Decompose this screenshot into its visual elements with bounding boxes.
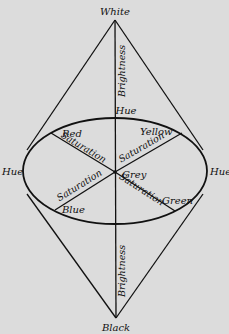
grey-center-point xyxy=(113,170,117,174)
color-solid-diagram: White Black Hue Hue Hue Brightness Brigh… xyxy=(0,0,229,334)
hue-label-left: Hue xyxy=(1,166,23,177)
green-label: Green xyxy=(162,195,193,206)
hue-label-right: Hue xyxy=(209,166,229,177)
black-label: Black xyxy=(101,322,130,333)
saturation-label-blue: Saturation xyxy=(55,167,104,203)
white-label: White xyxy=(100,6,130,17)
saturation-label-red: Saturation xyxy=(59,129,108,165)
brightness-label-upper: Brightness xyxy=(116,45,127,98)
blue-label: Blue xyxy=(61,204,85,215)
hue-label-top: Hue xyxy=(114,105,136,116)
brightness-label-lower: Brightness xyxy=(116,245,127,298)
lower-right-edge xyxy=(116,194,203,318)
